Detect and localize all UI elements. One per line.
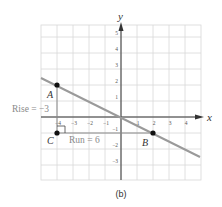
y-tick-label: 5	[115, 30, 118, 36]
x-tick-label: −2	[87, 120, 93, 126]
point-c	[54, 130, 59, 135]
y-tick-label: −2	[112, 142, 118, 148]
x-tick-label: −4	[55, 120, 61, 126]
point-a	[54, 82, 59, 87]
x-axis-label: x	[206, 111, 212, 123]
point-a-label: A	[46, 89, 54, 100]
point-b-label: B	[142, 137, 148, 148]
y-tick-label: −1	[112, 126, 118, 132]
x-tick-label: 2	[153, 120, 156, 126]
x-tick-label: 4	[185, 120, 188, 126]
y-axis-label: y	[117, 10, 123, 22]
x-tick-label: 3	[169, 120, 172, 126]
rise-label: Rise = −3	[12, 104, 49, 114]
x-tick-label: −3	[71, 120, 77, 126]
figure-caption: (b)	[116, 189, 127, 199]
y-tick-label: 4	[115, 46, 118, 52]
y-tick-label: 2	[115, 78, 118, 84]
coordinate-plane-figure: xy −4−3−2−1123454321−1−2−3 ACBRise = −3R…	[0, 0, 222, 207]
y-tick-label: 1	[115, 94, 118, 100]
y-tick-label: −3	[112, 158, 118, 164]
run-label: Run = 6	[69, 135, 100, 145]
y-tick-label: 3	[115, 62, 118, 68]
point-c-label: C	[47, 135, 54, 146]
x-tick-label: −1	[103, 120, 109, 126]
point-b	[150, 130, 155, 135]
